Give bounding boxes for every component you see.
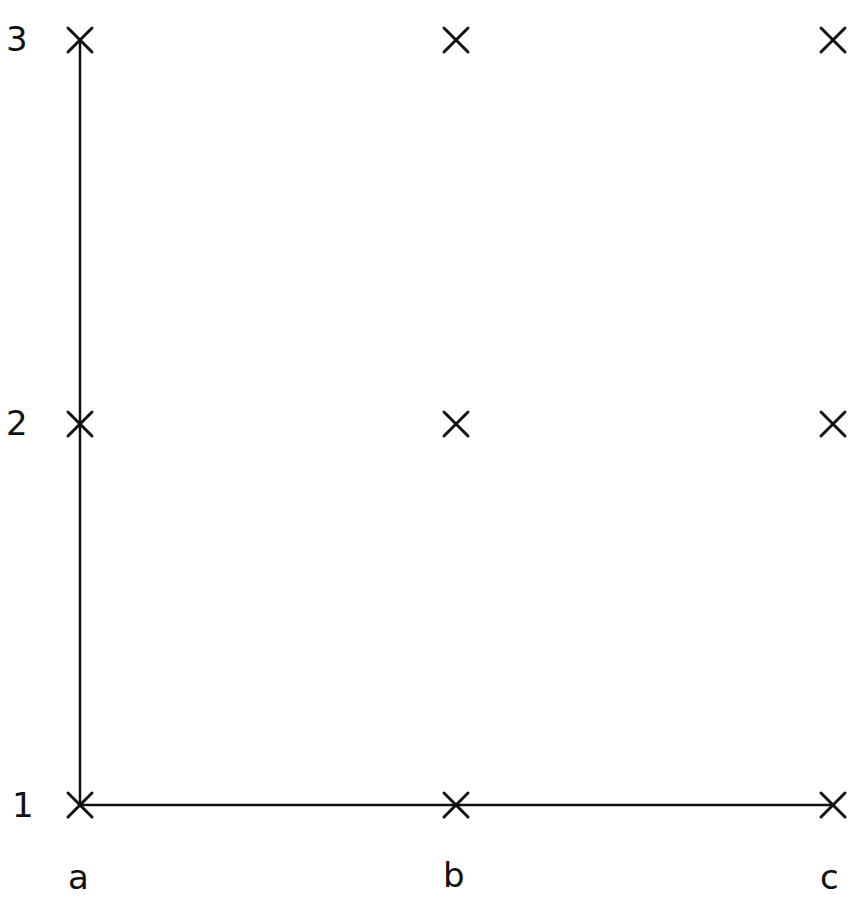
x-marker-icon [65, 790, 95, 820]
row-label-2: 2 [6, 406, 28, 440]
col-label-c: c [820, 860, 839, 894]
x-marker-icon [441, 25, 471, 55]
axes-lines [0, 0, 860, 905]
x-marker-icon [818, 409, 848, 439]
x-marker-icon [441, 409, 471, 439]
x-marker-icon [818, 25, 848, 55]
row-label-3: 3 [6, 22, 28, 56]
col-label-a: a [68, 860, 89, 894]
x-marker-icon [441, 790, 471, 820]
row-label-1: 1 [12, 788, 34, 822]
x-marker-icon [65, 409, 95, 439]
x-marker-icon [818, 790, 848, 820]
col-label-b: b [443, 858, 465, 892]
x-marker-icon [65, 25, 95, 55]
grid-diagram: 3 2 1 a b c [0, 0, 860, 905]
